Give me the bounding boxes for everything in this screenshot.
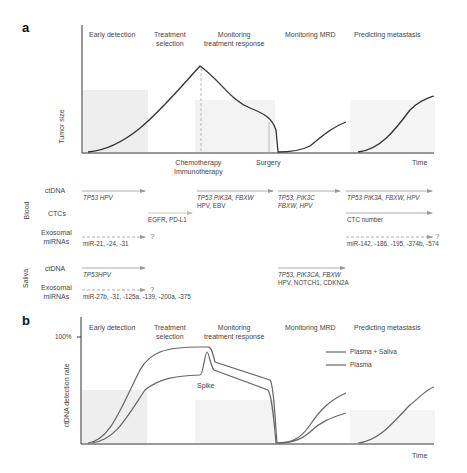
label-line: Exosomal bbox=[41, 283, 72, 292]
event-treatment: Chemotherapy Immunotherapy bbox=[174, 158, 223, 176]
phase-label-line: Monitoring bbox=[204, 30, 264, 39]
blood-ctdna-meta-markers: TP53 PIK3A, FBXW, HPV bbox=[347, 194, 420, 201]
phase-treatment-selection: Treatment selection bbox=[154, 30, 186, 48]
arrowhead bbox=[427, 235, 433, 239]
blood-mirna-meta-markers: miR-142, -186, -195, -374b, -574 bbox=[347, 240, 439, 247]
panel-a-label: a bbox=[22, 20, 29, 35]
phase-b-predicting-metastasis: Predicting metastasis bbox=[354, 323, 421, 332]
phase-label-line: selection bbox=[154, 39, 186, 48]
marker-line: TP53, PIK3C bbox=[278, 194, 315, 202]
event-chemo: Chemotherapy bbox=[174, 158, 223, 167]
phase-monitoring-mrd: Monitoring MRD bbox=[285, 30, 336, 39]
panel-b-label: b bbox=[22, 313, 30, 328]
phase-b-early-detection: Early detection bbox=[89, 323, 135, 332]
phase-b-treatment-selection: Treatment selection bbox=[154, 323, 186, 341]
phase-predicting-metastasis: Predicting metastasis bbox=[354, 30, 421, 39]
saliva-ctdna-label: ctDNA bbox=[45, 264, 65, 273]
y-tick-100-label: 100% bbox=[55, 333, 72, 340]
saliva-ctdna-early-markers: TP53HPV bbox=[83, 271, 111, 278]
x-axis-label-b: Time bbox=[412, 451, 427, 460]
blood-ctcs-label: CTCs bbox=[48, 209, 66, 218]
blood-ctdna-label: ctDNA bbox=[45, 186, 65, 195]
phase-label-line: treatment response bbox=[204, 332, 264, 341]
label-line: miRNAs bbox=[41, 292, 72, 301]
legend-plasma: Plasma bbox=[350, 361, 372, 368]
phase-label-line: Treatment bbox=[154, 323, 186, 332]
spike-annotation: Spike bbox=[197, 381, 215, 390]
marker-line: HPV, NOTCH1, CDKN2A bbox=[278, 279, 349, 287]
phase-label-line: selection bbox=[154, 332, 186, 341]
shade-monitor-a bbox=[195, 100, 275, 152]
marker-line: TP53 PIK3A, FBXW bbox=[197, 194, 253, 202]
event-surgery: Surgery bbox=[256, 158, 281, 167]
blood-ctdna-early-markers: TP53 HPV bbox=[83, 194, 113, 201]
phase-label-line: Monitoring bbox=[204, 323, 264, 332]
phase-label-line: treatment response bbox=[204, 39, 264, 48]
saliva-mirna-unknown: ? bbox=[150, 285, 154, 294]
marker-line: TP53, PIK3CA, FBXW bbox=[278, 271, 349, 279]
arrowhead bbox=[140, 288, 146, 292]
legend-plasma-saliva: Plasma + Saliva bbox=[350, 348, 397, 355]
phase-label-line: Treatment bbox=[154, 30, 186, 39]
shade-meta-b bbox=[350, 410, 435, 443]
shade-early-a bbox=[83, 90, 148, 152]
shade-meta-a bbox=[350, 100, 435, 152]
saliva-group-label: Saliva bbox=[22, 269, 29, 288]
event-immuno: Immunotherapy bbox=[174, 167, 223, 176]
arrowhead bbox=[140, 266, 146, 270]
shade-monitor-b bbox=[195, 400, 275, 443]
blood-mirna-label: Exosomal miRNAs bbox=[41, 228, 72, 246]
blood-ctdna-mrd-markers: TP53, PIK3C FBXW, HPV bbox=[278, 194, 315, 210]
arrowhead bbox=[187, 211, 193, 215]
arrowhead bbox=[427, 189, 433, 193]
arrowhead bbox=[140, 235, 146, 239]
arrowhead bbox=[268, 189, 274, 193]
marker-line: FBXW, HPV bbox=[278, 202, 315, 210]
blood-ctcs-treatment-markers: EGFR, PD-L1 bbox=[148, 216, 187, 223]
x-axis-label-a: Time bbox=[412, 158, 427, 167]
arrowhead bbox=[427, 211, 433, 215]
blood-ctdna-monitor-markers: TP53 PIK3A, FBXW HPV, EBV bbox=[197, 194, 253, 210]
blood-mirna-unknown: ? bbox=[150, 232, 154, 241]
saliva-mirna-early-markers: miR-27b, -31, -125a, -139, -200a, -375 bbox=[83, 293, 191, 300]
blood-mirna-early-markers: miR-21, -24, -31 bbox=[83, 240, 129, 247]
y-axis-label-a: Tumor size bbox=[58, 109, 65, 143]
shade-early-b bbox=[82, 390, 147, 443]
y-axis-label-b: ctDNA detection rate bbox=[63, 363, 70, 427]
marker-line: HPV, EBV bbox=[197, 202, 253, 210]
arrowhead bbox=[335, 189, 341, 193]
phase-b-monitoring-mrd: Monitoring MRD bbox=[285, 323, 336, 332]
phase-b-monitoring-response: Monitoring treatment response bbox=[204, 323, 264, 341]
label-line: Exosomal bbox=[41, 228, 72, 237]
blood-group-label: Blood bbox=[23, 202, 30, 220]
arrowhead bbox=[140, 189, 146, 193]
arrowhead bbox=[340, 266, 346, 270]
blood-mirna-meta-unknown: ? bbox=[435, 232, 439, 241]
saliva-mirna-label: Exosomal miRNAs bbox=[41, 283, 72, 301]
phase-monitoring-response: Monitoring treatment response bbox=[204, 30, 264, 48]
phase-early-detection: Early detection bbox=[89, 30, 135, 39]
blood-ctcs-meta-markers: CTC number bbox=[347, 216, 383, 223]
label-line: miRNAs bbox=[41, 237, 72, 246]
saliva-ctdna-mrd-markers: TP53, PIK3CA, FBXW HPV, NOTCH1, CDKN2A bbox=[278, 271, 349, 287]
